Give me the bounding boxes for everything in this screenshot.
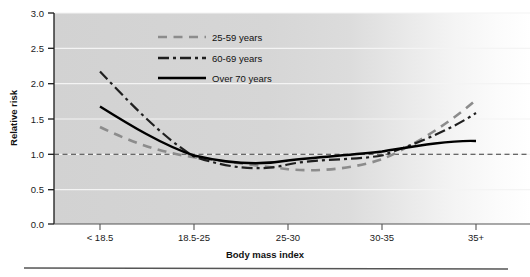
x-tick-marks [100, 224, 476, 230]
legend-label-over-70-years: Over 70 years [212, 73, 272, 84]
y-tick-label-2-5: 2.5 [31, 43, 44, 54]
y-tick-label-3-0: 3.0 [31, 8, 44, 19]
x-tick-label-18-5-25: 18.5-25 [178, 232, 210, 243]
legend-label-25-59-years: 25-59 years [212, 32, 262, 43]
y-tick-label-2-0: 2.0 [31, 78, 44, 89]
chart-figure: 3.0 2.5 2.0 1.5 1.0 0.5 0.0 Relative ris… [0, 0, 530, 277]
y-tick-label-0-0: 0.0 [31, 219, 44, 230]
footer-rule [24, 268, 508, 269]
x-tick-label-35-plus: 35+ [468, 232, 485, 243]
y-tick-label-1-0: 1.0 [31, 149, 44, 160]
y-axis-title: Relative risk [8, 89, 19, 146]
x-tick-label-25-30: 25-30 [276, 232, 300, 243]
x-tick-label-under-18-5: < 18.5 [87, 232, 114, 243]
y-tick-label-1-5: 1.5 [31, 114, 44, 125]
x-tick-label-30-35: 30-35 [370, 232, 394, 243]
y-tick-marks [48, 13, 54, 224]
legend-label-60-69-years: 60-69 years [212, 53, 262, 64]
x-axis-title: Body mass index [226, 249, 305, 260]
relative-risk-line-chart: 3.0 2.5 2.0 1.5 1.0 0.5 0.0 Relative ris… [0, 0, 530, 277]
y-tick-label-0-5: 0.5 [31, 184, 44, 195]
